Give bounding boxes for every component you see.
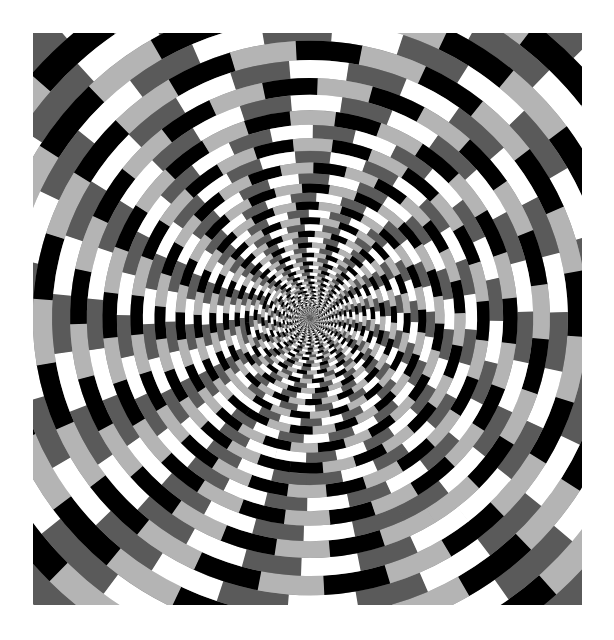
ring-segment [396, 313, 403, 332]
ring-segment [303, 318, 304, 319]
ring-segment [375, 311, 380, 324]
ring-segment [307, 291, 312, 293]
ring-segment [308, 301, 311, 302]
ring-segment [307, 334, 310, 335]
ring-segment [302, 183, 330, 194]
ring-segment [310, 332, 312, 333]
ring-segment [290, 442, 318, 453]
ring-segment [87, 298, 105, 350]
ring-segment [300, 217, 321, 225]
ring-segment [303, 433, 329, 443]
ring-segment [216, 305, 223, 324]
optical-illusion-image [33, 33, 582, 605]
ring-segment [308, 328, 310, 329]
ring-segment [301, 388, 315, 394]
ring-segment [309, 345, 314, 347]
ring-segment [346, 312, 349, 319]
ring-segment [102, 292, 118, 339]
ring-segment [291, 316, 292, 319]
ring-segment [303, 262, 314, 266]
ring-segment [359, 312, 363, 322]
ring-segment [298, 173, 330, 184]
ring-segment [307, 340, 311, 342]
ring-segment [304, 279, 311, 282]
ring-segment [265, 312, 269, 320]
ring-segment [300, 418, 322, 426]
ring-segment [308, 296, 312, 298]
ring-segment [304, 269, 313, 273]
ring-segment [209, 313, 217, 334]
ring-segment [308, 306, 310, 307]
ring-segment [298, 317, 299, 319]
ring-segment [328, 318, 330, 321]
ring-segment [342, 314, 345, 320]
ring-segment [309, 294, 313, 296]
ring-segment [245, 311, 250, 324]
ring-segment [403, 313, 411, 334]
ring-segment [316, 318, 317, 319]
ring-segment [308, 350, 314, 353]
ring-segment [309, 299, 312, 300]
ring-segment [309, 305, 311, 306]
ring-segment [310, 311, 311, 312]
ring-segment [319, 318, 320, 319]
ring-segment [303, 318, 304, 319]
ring-segment [320, 317, 321, 319]
ring-segment [310, 330, 312, 331]
ring-segment [298, 243, 312, 249]
ring-segment [321, 318, 322, 320]
ring-segment [316, 317, 317, 318]
ring-segment [278, 317, 280, 322]
ring-segment [310, 312, 311, 313]
ring-segment [425, 311, 435, 337]
ring-segment [319, 317, 320, 319]
ring-segment [308, 330, 310, 331]
ring-segment [307, 370, 318, 374]
ring-segment [297, 404, 316, 411]
ring-segment [309, 329, 311, 330]
ring-segment [306, 284, 312, 287]
ring-segment [291, 95, 343, 113]
ring-segment [307, 257, 318, 262]
ring-segment [307, 248, 320, 254]
ring-segment [304, 317, 305, 318]
ring-segment [302, 253, 315, 258]
ring-segment [316, 317, 317, 318]
ring-segment [309, 312, 310, 313]
ring-segment [309, 338, 313, 340]
ring-segment [297, 316, 298, 318]
ring-segment [344, 316, 347, 322]
ring-segment [307, 276, 315, 279]
ring-segment [293, 317, 294, 320]
ring-segment [308, 307, 310, 308]
ring-segment [302, 374, 313, 379]
ring-segment [308, 300, 311, 301]
ring-segment [307, 297, 310, 299]
ring-segment [305, 352, 311, 355]
ring-segment [281, 314, 283, 319]
ring-segment [317, 317, 318, 318]
ring-segment [349, 317, 352, 325]
ring-segment [355, 314, 359, 323]
ring-segment [322, 317, 323, 319]
ring-segment [285, 316, 287, 320]
ring-segment [289, 461, 323, 473]
ring-segment [306, 360, 314, 363]
ring-segment [309, 325, 310, 326]
ring-segment [309, 311, 310, 312]
spiral-checker-pattern [33, 33, 582, 605]
ring-segment [417, 309, 426, 333]
ring-segment [308, 337, 311, 338]
ring-segment [301, 318, 302, 319]
ring-segment [235, 312, 241, 326]
ring-segment [290, 110, 337, 126]
ring-segment [308, 332, 310, 333]
ring-segment [306, 341, 310, 343]
ring-segment [296, 316, 297, 318]
ring-segment [335, 314, 337, 319]
ring-segment [310, 308, 312, 309]
ring-segment [305, 398, 322, 405]
ring-segment [332, 315, 334, 319]
ring-segment [274, 539, 330, 558]
ring-segment [310, 328, 312, 329]
